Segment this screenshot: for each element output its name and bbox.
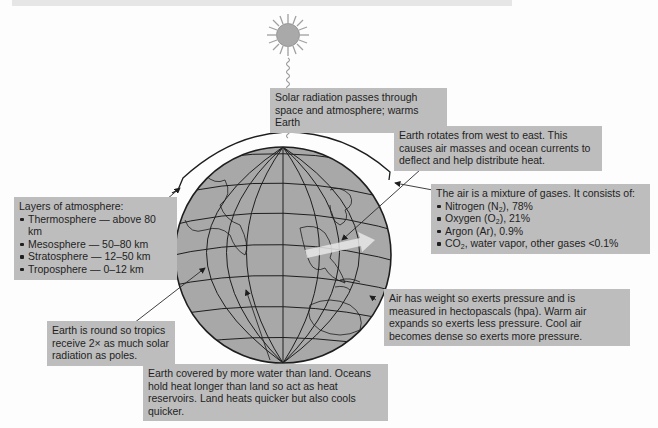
layer-item-thermosphere: Thermosphere — above 80 km (19, 213, 171, 238)
layer-item-mesosphere: Mesosphere — 50–80 km (19, 238, 171, 251)
layers-list: Thermosphere — above 80 km Mesosphere — … (19, 213, 171, 276)
air-pressure-text: Air has weight so exerts pressure and is… (389, 292, 586, 342)
gas-item-co2-other: CO2, water vapor, other gases <0.1% (436, 237, 644, 250)
earth-rotation-callout: Earth rotates from west to east. This ca… (394, 126, 602, 171)
water-land-text: Earth covered by more water than land. O… (148, 367, 371, 417)
air-mixture-callout: The air is a mixture of gases. It consis… (431, 184, 650, 254)
earth-rotation-text: Earth rotates from west to east. This ca… (399, 129, 590, 166)
gas-list: Nitrogen (N2), 78% Oxygen (O2), 21% Argo… (436, 200, 644, 250)
gas-item-nitrogen: Nitrogen (N2), 78% (436, 200, 644, 213)
air-mixture-heading: The air is a mixture of gases. It consis… (436, 187, 644, 200)
earth-round-text: Earth is round so tropics receive 2× as … (52, 324, 169, 361)
globe-icon (160, 147, 410, 363)
air-pressure-callout: Air has weight so exerts pressure and is… (384, 289, 630, 346)
gas-item-oxygen: Oxygen (O2), 21% (436, 212, 644, 225)
layer-item-stratosphere: Stratosphere — 12–50 km (19, 250, 171, 263)
layers-heading: Layers of atmosphere: (19, 200, 171, 213)
atmosphere-layers-callout: Layers of atmosphere: Thermosphere — abo… (14, 197, 177, 280)
solar-radiation-text: Solar radiation passes through space and… (275, 91, 419, 128)
gas-item-argon: Argon (Ar), 0.9% (436, 225, 644, 238)
water-land-callout: Earth covered by more water than land. O… (143, 364, 388, 421)
earth-round-callout: Earth is round so tropics receive 2× as … (47, 321, 175, 366)
sun-icon (267, 14, 309, 56)
layer-item-troposphere: Troposphere — 0–12 km (19, 263, 171, 276)
